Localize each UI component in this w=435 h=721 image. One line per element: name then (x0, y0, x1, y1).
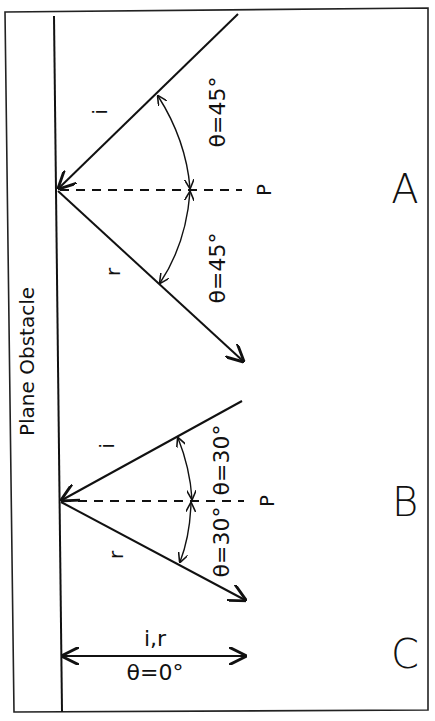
reflection-diagram: Plane Obstacle i r θ=45° θ=45° P A i r θ… (0, 0, 435, 721)
plane-obstacle-line (54, 16, 62, 712)
angle-arc-b-reflected (180, 503, 191, 562)
incident-label-a: i (88, 109, 112, 115)
angle-arc-a-incident (158, 96, 190, 188)
normal-label-b: P (255, 495, 279, 507)
panel-b: i r θ=30° θ=30° P B (61, 401, 418, 600)
angle-label-b-reflected: θ=30° (209, 507, 234, 578)
obstacle-label: Plane Obstacle (15, 287, 39, 436)
angle-label-c: θ=0° (127, 660, 184, 685)
angle-label-a-incident: θ=45° (205, 77, 230, 148)
angle-label-a-reflected: θ=45° (205, 233, 230, 304)
combined-label-c: i,r (144, 626, 167, 651)
angle-arc-b-incident (178, 438, 192, 499)
reflected-label-b: r (104, 550, 128, 559)
panel-c: i,r θ=0° C (63, 626, 419, 685)
normal-label-a: P (252, 184, 276, 196)
panel-label-a: A (391, 166, 418, 212)
angle-label-b-incident: θ=30° (209, 425, 234, 496)
angle-arc-a-reflected (160, 192, 190, 283)
panel-a: i r θ=45° θ=45° P A (58, 14, 419, 361)
incident-label-b: i (95, 443, 119, 449)
panel-label-b: B (392, 479, 418, 525)
panel-label-c: C (391, 631, 419, 677)
reflected-label-a: r (101, 267, 125, 276)
